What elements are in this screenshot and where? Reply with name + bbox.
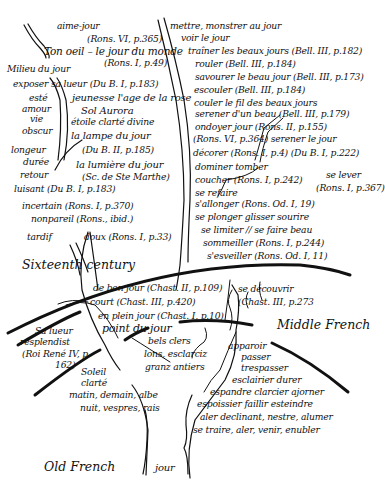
- term: Soleil: [81, 367, 106, 377]
- term: ondoyer jour (Rons. II, p.155): [195, 122, 327, 132]
- term: obscur: [22, 126, 52, 136]
- era-label-middle-french: Middle French: [277, 318, 370, 331]
- term: clarté: [81, 378, 107, 388]
- term: longeur: [11, 145, 46, 155]
- term: voir le jour: [181, 33, 230, 43]
- term: la lumière du jour: [76, 160, 163, 170]
- term: matin, demain, albe: [69, 390, 158, 400]
- term: se limiter // se faire beau: [201, 225, 312, 235]
- term: escouler (Bell. III, p.184): [194, 85, 305, 95]
- term: aler declinant, nestre, alumer: [200, 412, 333, 422]
- term: passer: [241, 352, 270, 362]
- term: sommeiller (Rons. I, p.244): [203, 238, 324, 248]
- term: incertain (Rons. I, p.370): [22, 201, 133, 211]
- term: luisant (Du B. I, p.183): [14, 184, 116, 194]
- term: se plonger glisser sourire: [195, 212, 309, 222]
- term: durée: [23, 157, 49, 167]
- term: trespasser: [241, 363, 288, 373]
- arc-middle: [180, 321, 252, 325]
- term: resplendist: [20, 337, 70, 347]
- term: bels clers: [148, 336, 191, 346]
- term: tardif: [27, 232, 52, 242]
- term: se découvrir: [238, 284, 294, 294]
- term: couler le fil des beaux jours: [194, 98, 317, 108]
- citation: (Rons. I, p.49): [104, 58, 167, 68]
- term: espandre clarcier ajorner: [210, 387, 324, 397]
- citation: (Du B. II, p.185): [82, 145, 154, 155]
- citation: 162): [55, 360, 75, 370]
- term: dominer tomber: [195, 162, 268, 172]
- term: court (Chast. III, p.420): [90, 297, 196, 307]
- citation: (Rons. VI, p.365): [87, 34, 162, 44]
- term: Sol Aurora: [81, 106, 133, 116]
- term: aime-jour: [57, 21, 100, 31]
- term: doux (Rons. I, p.33): [84, 232, 172, 242]
- term: serener d'un beau (Bell. III, p.179): [195, 109, 349, 119]
- term: jeunesse l'age de la rose: [72, 93, 191, 103]
- term: traîner les beaux jours (Bell. III, p.18…: [188, 46, 362, 56]
- term: espoissier faillir esteindre: [197, 399, 313, 409]
- term: s'esveiller (Rons. Od. I, 11): [207, 251, 327, 261]
- term: s'allonger (Rons. Od. I, 19): [195, 199, 315, 209]
- citation: (Sc. de Ste Marthe): [82, 172, 170, 182]
- term: lons, esclarciz: [144, 349, 207, 359]
- term: point du jour: [102, 324, 172, 334]
- term: Ton oeil – le jour du monde: [44, 46, 183, 56]
- term: étoile clarté divine: [71, 117, 154, 127]
- term: (Rons. VI, p.364) serener le jour: [193, 134, 337, 144]
- term: esclairier durer: [232, 375, 302, 385]
- era-label-old-french: Old French: [44, 460, 115, 473]
- term: de bon jour (Chast. II, p.109): [93, 283, 222, 293]
- term: se traire, aler, venir, enubler: [193, 425, 320, 435]
- term: la lampe du jour: [71, 131, 151, 141]
- term: nonpareil (Rons., ibid.): [31, 214, 133, 224]
- citation: (Rons. I, p.367): [316, 183, 385, 193]
- term: apparoir: [228, 341, 266, 351]
- term: se lever: [326, 170, 361, 180]
- citation: (Chast. III, p.273: [238, 297, 314, 307]
- era-label-sixteenth-century: Sixteenth century: [22, 258, 135, 271]
- jour-etymology-tree: Sixteenth century Middle French Old Fren…: [0, 0, 385, 485]
- term: en plein jour (Chast. I, p.10): [98, 311, 224, 321]
- term: exposer sa lueur (Du B. I, p.183): [13, 79, 158, 89]
- term: savourer le beau jour (Bell. III, p.173): [195, 72, 364, 82]
- term: Sa lueur: [35, 326, 73, 336]
- term: rouler (Bell. III, p.184): [195, 59, 296, 69]
- term: coucher (Rons. I, p.242): [195, 175, 303, 185]
- term: Milieu du jour: [7, 64, 70, 74]
- term: esté: [29, 93, 47, 103]
- root-word: jour: [155, 463, 175, 473]
- term: se refaire: [195, 188, 238, 198]
- term: nuit, vespres, rais: [80, 403, 160, 413]
- term: mettre, monstrer au jour: [170, 21, 281, 31]
- term: retour: [20, 170, 48, 180]
- term: décorer (Rons. I, p.4) (Du B. I, p.222): [193, 148, 359, 158]
- term: vie: [30, 114, 43, 124]
- citation: (Roi René IV, p.: [22, 349, 91, 359]
- term: granz antiers: [145, 362, 204, 372]
